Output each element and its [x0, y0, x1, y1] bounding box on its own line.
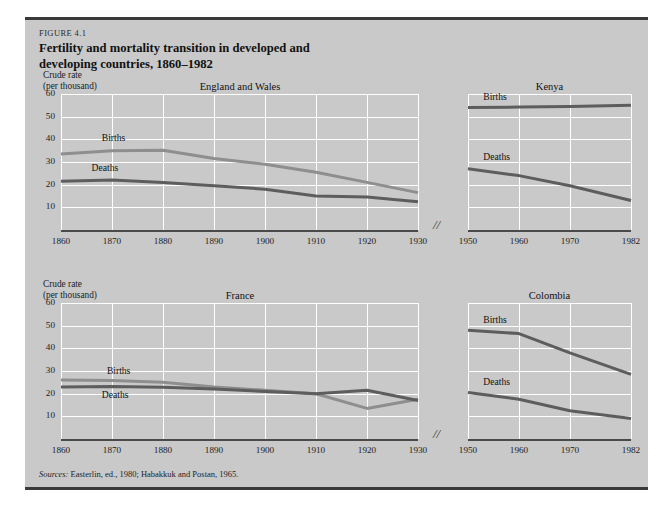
series-label-births: Births	[483, 314, 506, 325]
x-axis-tick-label: 1960	[502, 445, 536, 455]
sources-value: Easterlin, ed., 1980; Habakkuk and Posta…	[68, 469, 238, 479]
sources-note: Sources: Easterlin, ed., 1980; Habakkuk …	[39, 469, 238, 479]
series-line-deaths	[468, 393, 631, 419]
figure-panel: FIGURE 4.1 Fertility and mortality trans…	[25, 17, 648, 490]
chart-panel-colombia: Colombia1950196019701982BirthsDeaths	[25, 20, 648, 493]
series-line-births	[468, 330, 631, 374]
x-axis-tick-label: 1950	[451, 445, 485, 455]
x-axis-line	[468, 439, 631, 441]
x-axis-tick-label: 1982	[614, 445, 648, 455]
x-axis-tick-label: 1970	[553, 445, 587, 455]
series-label-deaths: Deaths	[483, 376, 510, 387]
axis-break-icon-bottom: //	[433, 426, 440, 442]
axis-break-icon-top: //	[433, 217, 440, 233]
gridline-vertical	[631, 303, 632, 439]
chart-title-colombia: Colombia	[468, 290, 631, 301]
sources-label: Sources:	[39, 469, 68, 479]
